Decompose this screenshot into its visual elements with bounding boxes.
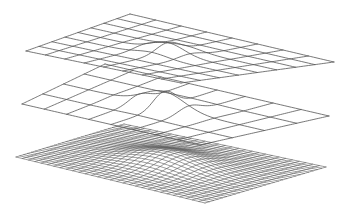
fine-mesh-layer: [16, 124, 326, 203]
mesh-line-v: [39, 46, 200, 80]
mesh-canvas: [0, 0, 349, 214]
mesh-line-u: [133, 97, 245, 130]
mesh-line-u: [89, 84, 189, 120]
mesh-line-v: [39, 150, 231, 195]
coarse-mesh-layer: [26, 14, 334, 83]
mesh-line-v: [62, 143, 257, 188]
mesh-line-v: [24, 155, 214, 201]
mesh-line-u: [156, 103, 274, 135]
mesh-line-u: [41, 130, 151, 163]
mesh-line-v: [16, 157, 205, 203]
mesh-line-v: [64, 84, 265, 131]
mesh-line-v: [105, 64, 329, 116]
multigrid-mesh-diagram: [0, 0, 349, 214]
mesh-line-u: [111, 90, 217, 125]
mesh-line-v: [117, 19, 315, 65]
middle-mesh-layer: [22, 64, 329, 145]
